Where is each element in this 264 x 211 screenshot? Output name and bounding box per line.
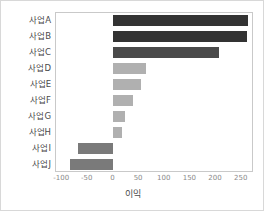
bar-row: 사업E [56,77,252,93]
x-axis-tick-label: 50 [134,174,143,182]
bar-row: 사업F [56,93,252,109]
bar-row-container: 사업A사업B사업C사업D사업E사업F사업G사업H사업I사업J [56,13,252,171]
x-axis-title: 이익 [1,187,264,200]
y-axis-category-label: 사업H [29,125,51,140]
bar [113,127,121,138]
bar [113,95,132,106]
x-axis-tick-label: -50 [81,174,92,182]
y-axis-category-label: 사업I [32,141,51,156]
y-axis-category-label: 사업J [32,157,51,172]
bar-row: 사업C [56,45,252,61]
plot-area: 사업A사업B사업C사업D사업E사업F사업G사업H사업I사업J [55,12,253,172]
bar [70,159,113,170]
bar [113,31,246,42]
y-axis-category-label: 사업G [28,109,51,124]
bar [113,79,141,90]
x-axis-tick-label: 250 [234,174,247,182]
bar [113,15,247,26]
x-axis-tick-container: -100-50050100150200250 [55,174,253,186]
bar-row: 사업D [56,61,252,77]
bar [113,47,219,58]
chart-figure: 사업A사업B사업C사업D사업E사업F사업G사업H사업I사업J -100-5005… [0,0,264,211]
chart-canvas: 사업A사업B사업C사업D사업E사업F사업G사업H사업I사업J -100-5005… [1,1,264,211]
bar [113,111,124,122]
y-axis-category-label: 사업A [29,13,51,28]
x-axis-tick-label: 0 [110,174,114,182]
y-axis-category-label: 사업B [29,29,51,44]
bar-row: 사업B [56,29,252,45]
y-axis-category-label: 사업C [29,45,51,60]
bar-row: 사업I [56,141,252,157]
bar-row: 사업G [56,109,252,125]
y-axis-category-label: 사업D [28,61,51,76]
y-axis-category-label: 사업E [30,77,51,92]
bar-row: 사업H [56,125,252,141]
x-axis-tick-label: 200 [208,174,221,182]
x-axis-tick-label: 150 [183,174,196,182]
x-axis-tick-label: -100 [53,174,69,182]
bar-row: 사업A [56,13,252,29]
bar [113,63,146,74]
bar-row: 사업J [56,157,252,173]
y-axis-category-label: 사업F [30,93,51,108]
x-axis-tick-label: 100 [157,174,170,182]
bar [78,143,114,154]
